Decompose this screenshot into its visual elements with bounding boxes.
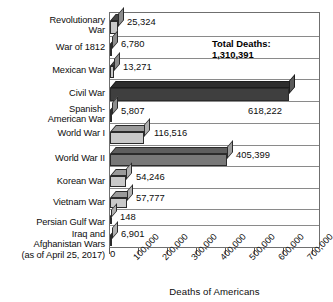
bar-war-of-1812 — [110, 44, 112, 56]
category-label-persian-gulf-war: Persian Gulf War — [36, 217, 105, 227]
bar-face-top — [110, 147, 233, 154]
category-label-revolutionary-war: Revolutionary War — [49, 15, 105, 36]
gridline-row-1 — [110, 36, 319, 37]
bar-face-top — [110, 81, 295, 88]
category-label-spanish-american-war: Spanish- American War — [48, 104, 105, 125]
bar-face-side — [289, 74, 295, 94]
bar-face-side — [127, 184, 133, 201]
category-label-mexican-war: Mexican War — [52, 65, 105, 75]
category-label-world-war-ii: World War II — [55, 153, 105, 163]
value-label-korean-war: 54,246 — [136, 172, 165, 182]
value-label-vietnam-war: 57,777 — [136, 193, 165, 203]
bar-world-war-i — [110, 132, 144, 144]
value-label-revolutionary-war: 25,324 — [127, 17, 156, 27]
bar-spanish-american-war — [110, 110, 112, 122]
gridline-row-4 — [110, 101, 319, 102]
bar-world-war-ii — [110, 154, 227, 166]
bar-face-front — [110, 154, 227, 166]
gridline-row-3 — [110, 79, 319, 80]
value-label-spanish-american-war: 5,807 — [121, 106, 144, 116]
chart-container: Revolutionary War War of 1812 Mexican Wa… — [0, 0, 333, 302]
bar-civil-war — [110, 88, 289, 101]
gridline-row-6 — [110, 145, 319, 146]
category-label-war-of-1812: War of 1812 — [56, 42, 105, 52]
bar-face-side — [227, 140, 233, 159]
value-label-world-war-i: 116,516 — [154, 128, 187, 138]
category-axis-labels: Revolutionary War War of 1812 Mexican Wa… — [0, 0, 109, 248]
value-label-world-war-ii: 405,399 — [236, 150, 270, 160]
gridline-row-9 — [110, 209, 319, 210]
bar-face-side — [112, 221, 118, 239]
plot-area: 25,324 6,780 13,271 618,222 5,807 116,51… — [109, 12, 320, 248]
bar-face-side — [144, 118, 150, 137]
total-deaths-annotation: Total Deaths: 1,310,391 — [212, 38, 271, 60]
bar-iraq-afghanistan-wars — [110, 235, 112, 246]
category-label-korean-war: Korean War — [57, 176, 105, 186]
bar-face-front — [110, 176, 126, 187]
bar-face-side — [114, 52, 120, 71]
bar-korean-war — [110, 176, 126, 187]
x-axis-title: Deaths of Americans — [109, 286, 320, 297]
value-label-civil-war: 618,222 — [248, 106, 282, 116]
bar-mexican-war — [110, 66, 114, 78]
gridline-row-10 — [110, 225, 319, 226]
gridline-row-5 — [110, 123, 319, 124]
bar-face-front — [110, 88, 289, 101]
gridline-row-7 — [110, 166, 319, 167]
gridline-row-8 — [110, 188, 319, 189]
value-label-mexican-war: 13,271 — [123, 62, 152, 72]
x-ticklabel-0: 0 — [110, 249, 115, 259]
category-label-world-war-i: World War I — [58, 128, 105, 138]
bar-face-side — [118, 7, 124, 27]
value-label-war-of-1812: 6,780 — [121, 39, 144, 49]
bar-persian-gulf-war — [110, 216, 111, 224]
category-label-iraq-afghanistan-wars: Iraq and Afghanistan Wars (as of April 2… — [21, 229, 105, 260]
category-label-vietnam-war: Vietnam War — [53, 197, 105, 207]
value-label-persian-gulf-war: 148 — [120, 212, 136, 222]
category-label-civil-war: Civil War — [69, 88, 105, 98]
value-label-iraq-afghanistan-wars: 6,901 — [121, 229, 144, 239]
bar-face-front — [110, 132, 144, 144]
